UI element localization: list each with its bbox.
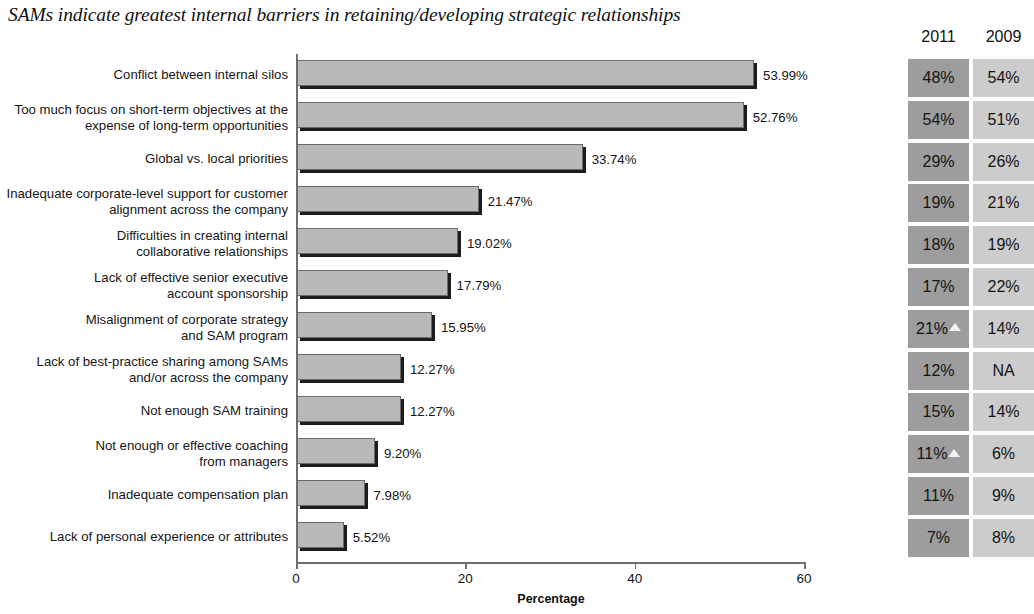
cell-2011-value: 17% bbox=[922, 278, 954, 296]
table-row: 12%NA bbox=[908, 351, 1034, 393]
table-row: 7%8% bbox=[908, 518, 1034, 560]
cell-2009-value: NA bbox=[992, 362, 1014, 380]
table-row: 21%14% bbox=[908, 309, 1034, 351]
x-axis-tick bbox=[465, 562, 467, 569]
bar[interactable] bbox=[297, 102, 744, 128]
cell-2009-value: 26% bbox=[987, 153, 1019, 171]
category-label: Global vs. local priorities bbox=[0, 151, 288, 167]
category-label: Misalignment of corporate strategy and S… bbox=[0, 312, 288, 343]
bar-chart-plot-area: Conflict between internal silos53.99%Too… bbox=[0, 52, 880, 564]
cell-2009: NA bbox=[973, 352, 1034, 390]
bar[interactable] bbox=[297, 60, 754, 86]
cell-2011-value: 48% bbox=[922, 69, 954, 87]
cell-2009-value: 22% bbox=[987, 278, 1019, 296]
cell-2009-value: 54% bbox=[987, 69, 1019, 87]
cell-2011: 11% bbox=[908, 477, 969, 515]
cell-2009-value: 14% bbox=[987, 403, 1019, 421]
increase-triangle-icon bbox=[949, 323, 961, 331]
bar-row: Inadequate corporate-level support for c… bbox=[0, 180, 880, 222]
table-row: 11%9% bbox=[908, 476, 1034, 518]
cell-2009-value: 51% bbox=[987, 111, 1019, 129]
cell-2009: 22% bbox=[973, 268, 1034, 306]
bar-row: Inadequate compensation plan7.98% bbox=[0, 474, 880, 516]
bar-value-label: 7.98% bbox=[374, 488, 411, 503]
category-label: Not enough SAM training bbox=[0, 403, 288, 419]
bar-row: Too much focus on short-term objectives … bbox=[0, 96, 880, 138]
x-axis-title: Percentage bbox=[296, 592, 806, 606]
x-axis-tick-label: 40 bbox=[627, 571, 642, 586]
cell-2011-value: 19% bbox=[922, 194, 954, 212]
page-title: SAMs indicate greatest internal barriers… bbox=[8, 4, 888, 26]
column-header-2009: 2009 bbox=[973, 28, 1034, 46]
x-axis-tick-label: 0 bbox=[292, 571, 300, 586]
cell-2011: 29% bbox=[908, 143, 969, 181]
cell-2011: 12% bbox=[908, 352, 969, 390]
bar-value-label: 17.79% bbox=[457, 278, 502, 293]
category-label: Inadequate compensation plan bbox=[0, 487, 288, 503]
category-label: Lack of personal experience or attribute… bbox=[0, 529, 288, 545]
category-label: Lack of best-practice sharing among SAMs… bbox=[0, 354, 288, 385]
cell-2009-value: 6% bbox=[992, 445, 1015, 463]
table-row: 11%6% bbox=[908, 434, 1034, 476]
bar[interactable] bbox=[297, 522, 344, 548]
x-axis-tick bbox=[635, 562, 637, 569]
bar[interactable] bbox=[297, 480, 365, 506]
cell-2009: 9% bbox=[973, 477, 1034, 515]
cell-2009-value: 14% bbox=[987, 320, 1019, 338]
x-axis-tick-label: 20 bbox=[458, 571, 473, 586]
cell-2009: 26% bbox=[973, 143, 1034, 181]
cell-2011-value: 21% bbox=[916, 320, 948, 338]
cell-2009: 14% bbox=[973, 310, 1034, 348]
cell-2009: 54% bbox=[973, 59, 1034, 97]
table-row: 19%21% bbox=[908, 183, 1034, 225]
cell-2011-value: 29% bbox=[922, 153, 954, 171]
bar-value-label: 15.95% bbox=[441, 320, 486, 335]
table-row: 29%26% bbox=[908, 142, 1034, 184]
bar-value-label: 21.47% bbox=[488, 194, 533, 209]
cell-2009-value: 9% bbox=[992, 487, 1015, 505]
cell-2009: 21% bbox=[973, 184, 1034, 222]
cell-2011: 18% bbox=[908, 226, 969, 264]
cell-2009-value: 19% bbox=[987, 236, 1019, 254]
cell-2011: 48% bbox=[908, 59, 969, 97]
cell-2009: 8% bbox=[973, 519, 1034, 557]
category-label: Inadequate corporate-level support for c… bbox=[0, 186, 288, 217]
table-row: 48%54% bbox=[908, 58, 1034, 100]
cell-2011: 15% bbox=[908, 393, 969, 431]
bar[interactable] bbox=[297, 396, 401, 422]
bar-row: Misalignment of corporate strategy and S… bbox=[0, 306, 880, 348]
bar-row: Lack of best-practice sharing among SAMs… bbox=[0, 348, 880, 390]
comparison-table-body: 48%54%54%51%29%26%19%21%18%19%17%22%21%1… bbox=[908, 58, 1034, 560]
increase-triangle-icon bbox=[948, 449, 960, 457]
bar[interactable] bbox=[297, 270, 448, 296]
cell-2009: 6% bbox=[973, 435, 1034, 473]
bar[interactable] bbox=[297, 354, 401, 380]
bar-row: Lack of effective senior executive accou… bbox=[0, 264, 880, 306]
bar-value-label: 12.27% bbox=[410, 404, 455, 419]
comparison-table-header: 2011 2009 bbox=[908, 28, 1034, 54]
cell-2009: 19% bbox=[973, 226, 1034, 264]
bar[interactable] bbox=[297, 144, 583, 170]
bar-value-label: 53.99% bbox=[763, 68, 808, 83]
category-label: Difficulties in creating internal collab… bbox=[0, 228, 288, 259]
bar-value-label: 9.20% bbox=[384, 446, 421, 461]
bar[interactable] bbox=[297, 228, 458, 254]
bar[interactable] bbox=[297, 312, 432, 338]
bar[interactable] bbox=[297, 438, 375, 464]
cell-2011-value: 54% bbox=[922, 111, 954, 129]
bar-row: Global vs. local priorities33.74% bbox=[0, 138, 880, 180]
comparison-table: 2011 2009 48%54%54%51%29%26%19%21%18%19%… bbox=[908, 28, 1034, 54]
bar-value-label: 52.76% bbox=[753, 110, 798, 125]
bar-row: Lack of personal experience or attribute… bbox=[0, 516, 880, 558]
x-axis-line: 0204060 bbox=[296, 562, 806, 564]
table-row: 18%19% bbox=[908, 225, 1034, 267]
cell-2009-value: 8% bbox=[992, 529, 1015, 547]
cell-2009: 51% bbox=[973, 101, 1034, 139]
column-header-2011: 2011 bbox=[908, 28, 969, 46]
bar-row: Not enough SAM training12.27% bbox=[0, 390, 880, 432]
x-axis-tick bbox=[296, 562, 298, 569]
cell-2009: 14% bbox=[973, 393, 1034, 431]
bar[interactable] bbox=[297, 186, 479, 212]
bar-value-label: 12.27% bbox=[410, 362, 455, 377]
category-label: Conflict between internal silos bbox=[0, 67, 288, 83]
